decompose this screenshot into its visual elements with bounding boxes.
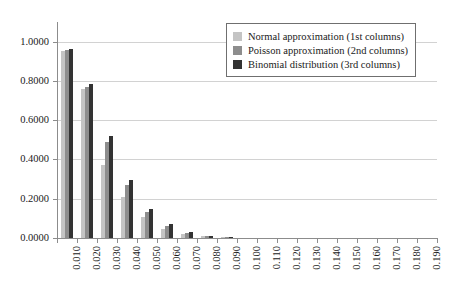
legend-label-poisson: Poisson approximation (2nd columns)	[248, 45, 408, 56]
legend-swatch-icon-poisson	[233, 46, 242, 55]
x-axis-tick-label: 0.170	[391, 246, 402, 270]
bar	[169, 224, 173, 238]
x-axis-tick	[257, 238, 258, 243]
x-axis-tick-label: 0.190	[431, 246, 442, 270]
bar	[89, 84, 93, 238]
x-axis-tick-label: 0.180	[411, 246, 422, 270]
bar-group	[161, 22, 173, 238]
x-axis-tick-label: 0.030	[111, 246, 122, 270]
x-axis-tick-label: 0.080	[211, 246, 222, 270]
legend-item-poisson: Poisson approximation (2nd columns)	[233, 43, 408, 57]
y-axis-tick-label: 0.6000	[20, 115, 49, 125]
x-axis-tick-label: 0.060	[171, 246, 182, 270]
x-axis-tick-label: 0.020	[91, 246, 102, 270]
x-axis-ticks	[57, 238, 437, 244]
x-axis-tick-label: 0.130	[311, 246, 322, 270]
x-axis-tick-label: 0.120	[291, 246, 302, 270]
y-axis-tick-label: 0.4000	[20, 154, 49, 164]
x-axis-tick	[417, 238, 418, 243]
x-axis-tick	[137, 238, 138, 243]
y-axis-tick-labels: 0.00000.20000.40000.60000.80001.0000	[0, 22, 53, 239]
bar-group	[101, 22, 113, 238]
bar	[109, 136, 113, 238]
x-axis-tick	[117, 238, 118, 243]
x-axis-tick	[357, 238, 358, 243]
x-axis-tick	[397, 238, 398, 243]
x-axis-tick-label: 0.150	[351, 246, 362, 270]
bar	[69, 49, 73, 238]
x-axis-tick	[237, 238, 238, 243]
x-axis-tick	[57, 238, 58, 243]
bar	[129, 180, 133, 238]
bar-group	[141, 22, 153, 238]
y-axis-line	[57, 22, 58, 239]
x-axis-tick	[297, 238, 298, 243]
x-axis-tick	[437, 238, 438, 243]
y-axis-tick-label: 0.8000	[20, 76, 49, 86]
legend-item-binomial: Binomial distribution (3rd columns)	[233, 57, 408, 71]
x-axis-tick-labels: 0.0100.0200.0300.0400.0500.0600.0700.080…	[57, 246, 437, 296]
bar-group	[201, 22, 213, 238]
x-axis-tick	[377, 238, 378, 243]
x-axis-tick	[217, 238, 218, 243]
x-axis-tick-label: 0.140	[331, 246, 342, 270]
x-axis-tick-label: 0.100	[251, 246, 262, 270]
x-axis-tick	[157, 238, 158, 243]
x-axis-tick-label: 0.090	[231, 246, 242, 270]
x-axis-tick	[177, 238, 178, 243]
bar	[149, 209, 153, 238]
x-axis-tick-label: 0.010	[71, 246, 82, 270]
bar-group	[421, 22, 433, 238]
bar-group	[61, 22, 73, 238]
chart-container: 0.00000.20000.40000.60000.80001.0000 0.0…	[0, 0, 451, 297]
y-axis-tick-label: 1.0000	[20, 37, 49, 47]
x-axis-tick-label: 0.050	[151, 246, 162, 270]
x-axis-tick	[277, 238, 278, 243]
y-axis-tick-label: 0.0000	[20, 233, 49, 243]
chart-legend: Normal approximation (1st columns) Poiss…	[226, 23, 416, 77]
legend-label-normal: Normal approximation (1st columns)	[248, 31, 404, 42]
x-axis-tick-label: 0.160	[371, 246, 382, 270]
bar-group	[121, 22, 133, 238]
x-axis-tick-label: 0.070	[191, 246, 202, 270]
legend-item-normal: Normal approximation (1st columns)	[233, 29, 408, 43]
legend-label-binomial: Binomial distribution (3rd columns)	[248, 59, 400, 70]
x-axis-tick	[97, 238, 98, 243]
bar-group	[81, 22, 93, 238]
x-axis-tick-label: 0.040	[131, 246, 142, 270]
bar-group	[181, 22, 193, 238]
x-axis-tick	[197, 238, 198, 243]
y-axis-tick-label: 0.2000	[20, 194, 49, 204]
x-axis-tick	[77, 238, 78, 243]
x-axis-tick	[317, 238, 318, 243]
legend-swatch-icon-binomial	[233, 60, 242, 69]
x-axis-tick	[337, 238, 338, 243]
x-axis-tick-label: 0.110	[271, 246, 282, 269]
legend-swatch-icon-normal	[233, 32, 242, 41]
